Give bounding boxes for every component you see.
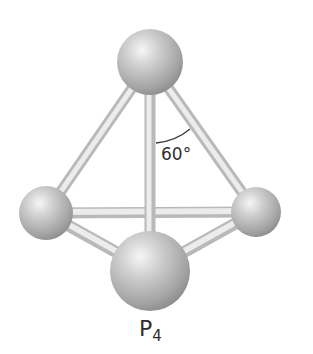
formula-label: P4 — [139, 316, 162, 345]
molecule-svg — [0, 0, 313, 354]
formula-subscript: 4 — [152, 327, 162, 345]
p4-molecule-diagram: 60° P4 — [0, 0, 313, 354]
atom-right — [231, 187, 281, 237]
angle-arc — [156, 129, 190, 143]
atom-left — [19, 186, 73, 240]
atom-front — [110, 231, 190, 311]
formula-element: P — [139, 316, 152, 341]
atom-top — [117, 29, 183, 95]
angle-label: 60° — [161, 144, 191, 164]
